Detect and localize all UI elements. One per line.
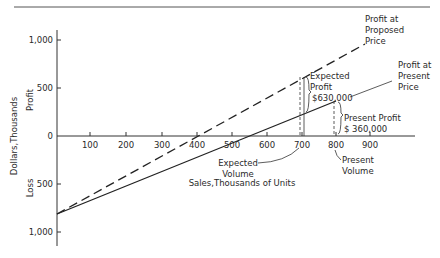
x-tick-label: 600 <box>259 140 275 150</box>
present-price-label: Profit at <box>398 60 432 70</box>
y-tick-label: 1,000 <box>29 35 53 45</box>
present-profit-value: $ 360,000 <box>344 124 387 134</box>
x-ticks <box>90 132 370 136</box>
x-tick-label: 700 <box>294 140 310 150</box>
break-even-chart: 1,000 500 0 500 1,000 100 200 300 400 50… <box>0 0 440 258</box>
x-tick-label: 200 <box>118 140 134 150</box>
profit-label: Profit <box>25 88 35 111</box>
expected-profit-label: Profit <box>310 82 333 92</box>
expected-volume-arrow <box>258 148 299 163</box>
present-price-label: Price <box>398 82 419 92</box>
expected-volume-label: Volume <box>222 169 254 179</box>
proposed-price-label: Price <box>365 36 386 46</box>
x-tick-label: 100 <box>82 140 98 150</box>
x-tick-label: 300 <box>154 140 170 150</box>
present-volume-label: Volume <box>342 166 374 176</box>
proposed-price-label: Proposed <box>365 25 404 35</box>
present-volume-label: Present <box>342 155 375 165</box>
y-tick-label: 1,000 <box>29 227 53 237</box>
y-tick-label: 500 <box>37 179 53 189</box>
y-tick-label: 0 <box>48 131 53 141</box>
x-axis-label: Sales,Thousands of Units <box>189 178 296 188</box>
x-tick-label: 900 <box>362 140 378 150</box>
proposed-price-label: Profit at <box>365 14 399 24</box>
expected-volume-label: Expected <box>218 158 258 168</box>
expected-profit-value: $630,000 <box>312 93 353 103</box>
expected-profit-label: Expected <box>310 71 350 81</box>
present-profit-label: Present Profit <box>344 113 401 123</box>
x-tick-label: 800 <box>328 140 344 150</box>
present-volume-arrow <box>335 150 341 160</box>
loss-label: Loss <box>25 178 35 197</box>
present-profit-brace <box>338 102 343 134</box>
present-price-line <box>57 101 336 214</box>
y-tick-label: 500 <box>37 83 53 93</box>
present-price-label: Present <box>398 71 431 81</box>
x-tick-label: 400 <box>189 140 205 150</box>
proposed-price-line <box>57 44 365 214</box>
y-axis-label: Dollars,Thousands <box>9 96 19 175</box>
present-price-leader <box>350 81 392 97</box>
